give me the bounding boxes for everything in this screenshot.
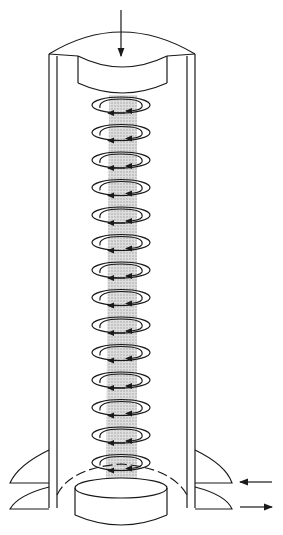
bottom-disc	[75, 478, 167, 525]
top-cap	[49, 32, 195, 93]
vortex-tube-diagram	[0, 0, 283, 535]
